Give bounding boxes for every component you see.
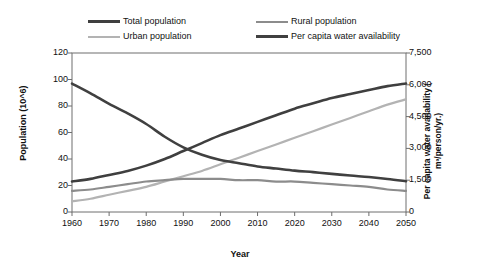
plot-area <box>0 0 480 267</box>
series-line-per-capita-water-availability <box>72 84 406 182</box>
series-line-rural-population <box>72 179 406 191</box>
plot-border <box>72 53 406 212</box>
chart-figure: Total population Rural population Urban … <box>0 0 480 267</box>
series-line-total-population <box>72 83 406 181</box>
